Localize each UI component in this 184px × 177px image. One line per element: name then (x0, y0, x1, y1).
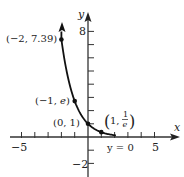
x-tick-label-max: 5 (152, 141, 159, 154)
y-axis-ticks (88, 31, 94, 163)
data-point (59, 37, 64, 42)
point-label-0: (0, 1) (53, 117, 80, 128)
point-label-1: ( 1, 1 e ) (104, 110, 135, 131)
asymptote-label: y = 0 (106, 142, 134, 153)
point-label-neg1: (−1, e) (35, 95, 70, 106)
fraction-numerator: 1 (123, 110, 128, 119)
exponential-plot: x y −5 5 8 −2 (−2, 7.39) (−1, e) (0, 1) … (0, 0, 184, 177)
y-tick-label-min: −2 (72, 158, 88, 171)
point-label-neg2: (−2, 7.39) (6, 33, 57, 44)
fraction-denominator: e (123, 120, 128, 129)
y-axis-label: y (77, 8, 85, 21)
curve-arrow-icon (59, 22, 66, 32)
data-point (86, 122, 91, 127)
close-paren: ) (129, 112, 135, 131)
x-axis-label: x (174, 121, 181, 134)
point-label-1-prefix: 1, (110, 115, 120, 126)
x-tick-label-min: −5 (11, 141, 27, 154)
data-point (72, 99, 77, 104)
data-point (99, 130, 104, 135)
x-axis (10, 132, 180, 141)
y-tick-label-max: 8 (79, 25, 86, 38)
